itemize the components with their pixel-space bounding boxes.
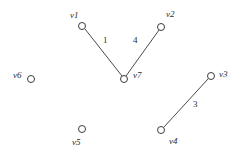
node-label-v2: v2 <box>166 10 175 19</box>
edge-weight-label: 3 <box>193 100 198 109</box>
graph-node-v6 <box>28 76 35 83</box>
graph-node-v1 <box>79 23 86 30</box>
graph-node-v5 <box>79 126 86 133</box>
graph-node-v3 <box>208 73 215 80</box>
node-label-v4: v4 <box>169 137 178 146</box>
nodes-group <box>28 23 215 134</box>
node-label-v7: v7 <box>133 71 142 80</box>
edge-weight-label: 4 <box>133 36 138 45</box>
graph-edge <box>126 30 159 76</box>
graph-canvas <box>0 0 241 156</box>
node-label-v1: v1 <box>70 11 79 20</box>
edge-weight-label: 1 <box>103 36 108 45</box>
graph-node-v2 <box>158 24 165 31</box>
node-label-v3: v3 <box>219 70 228 79</box>
graph-node-v7 <box>121 76 128 83</box>
graph-diagram: v1v2v3v4v5v6v7 143 <box>0 0 241 156</box>
graph-edge <box>164 79 208 127</box>
node-label-v5: v5 <box>72 138 81 147</box>
graph-node-v4 <box>158 127 165 134</box>
node-label-v6: v6 <box>13 71 22 80</box>
